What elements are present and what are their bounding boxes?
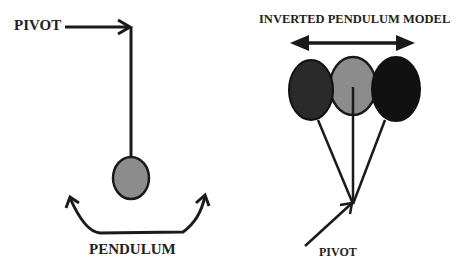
rod-right bbox=[353, 120, 385, 204]
swing-arc bbox=[70, 196, 205, 233]
sway-arrowhead-right-icon bbox=[396, 35, 415, 51]
simple-pendulum-diagram: PIVOT PENDULUM bbox=[14, 17, 209, 257]
sway-arrowhead-left-icon bbox=[290, 35, 309, 51]
rod-left bbox=[318, 120, 353, 204]
pivot-label-right: PIVOT bbox=[319, 245, 357, 259]
inverted-pendulum-diagram: INVERTED PENDULUM MODEL PIVOT bbox=[259, 12, 450, 259]
inverted-bob-right bbox=[372, 57, 420, 121]
inverted-bob-left bbox=[289, 60, 333, 120]
pivot-label-left: PIVOT bbox=[14, 17, 61, 33]
diagram-canvas: PIVOT PENDULUM INVERTED PENDULUM MODEL P… bbox=[0, 0, 470, 267]
pendulum-label: PENDULUM bbox=[89, 241, 176, 257]
inverted-pendulum-title: INVERTED PENDULUM MODEL bbox=[259, 12, 450, 26]
pendulum-bob bbox=[113, 157, 149, 199]
pivot-arrow-shaft-right bbox=[305, 204, 351, 246]
